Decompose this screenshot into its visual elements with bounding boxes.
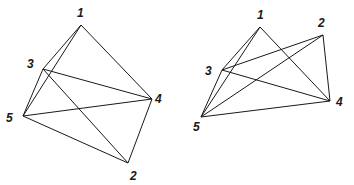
edge-1-3: [43, 25, 81, 69]
vertex-label-4: 4: [154, 92, 162, 106]
edge-5-2: [23, 116, 128, 163]
edge-2-4: [323, 35, 330, 101]
vertex-label-3: 3: [205, 64, 212, 78]
edge-3-4: [43, 69, 152, 99]
vertex-label-3: 3: [27, 57, 34, 71]
graph-diagram: 1234512345: [0, 0, 354, 185]
vertex-label-5: 5: [6, 111, 13, 125]
edge-1-4: [81, 25, 152, 99]
vertex-label-2: 2: [129, 169, 137, 183]
edge-3-2: [43, 69, 128, 163]
vertex-label-1: 1: [77, 6, 84, 20]
edge-3-5: [23, 69, 43, 116]
edge-1-4: [260, 27, 330, 101]
edge-5-4: [23, 99, 152, 116]
left-graph: 12345: [6, 6, 162, 183]
edge-4-2: [128, 99, 152, 163]
vertex-label-5: 5: [193, 120, 200, 134]
right-graph: 12345: [193, 8, 343, 134]
vertex-label-2: 2: [317, 16, 325, 30]
vertex-label-1: 1: [257, 8, 264, 22]
vertex-label-4: 4: [335, 95, 343, 109]
edge-3-4: [222, 70, 330, 101]
